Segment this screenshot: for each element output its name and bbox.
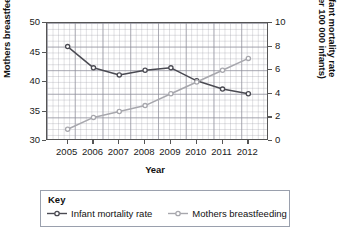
data-point-marker <box>220 68 224 72</box>
data-point-marker <box>143 104 147 108</box>
y-axis-right-title: Infant mortality rate (per 100 000 infan… <box>311 0 337 90</box>
x-axis-tick-label: 2007 <box>105 146 131 157</box>
x-axis-tick-label: 2012 <box>234 146 260 157</box>
data-point-marker <box>66 45 70 49</box>
x-axis-tick-label: 2006 <box>79 146 105 157</box>
legend-box: Key Infant mortality rateMothers breastf… <box>40 190 290 227</box>
data-point-marker <box>66 127 70 131</box>
legend-title: Key <box>48 194 283 205</box>
legend-label: Infant mortality rate <box>71 208 152 219</box>
data-point-marker <box>91 66 95 70</box>
data-point-marker <box>117 73 121 77</box>
legend-label: Mothers breastfeeding <box>192 208 287 219</box>
x-axis-title: Year <box>40 165 270 175</box>
y-axis-right-tick-label: 10 <box>275 16 293 27</box>
x-axis-tick-label: 2011 <box>209 146 235 157</box>
legend-item: Mothers breastfeeding <box>168 208 287 219</box>
y-axis-right-title-line1: Infant mortality rate <box>327 0 337 90</box>
data-point-marker <box>246 92 250 96</box>
data-point-marker <box>117 109 121 113</box>
x-axis-tick-label: 2010 <box>183 146 209 157</box>
legend-marker-icon <box>47 209 67 218</box>
chart-figure: Mothers breastfeeding (%) Infant mortali… <box>0 0 344 229</box>
y-axis-left-tick-label: 50 <box>22 16 40 27</box>
legend-item: Infant mortality rate <box>47 208 152 219</box>
data-point-marker <box>143 68 147 72</box>
x-axis-tick-label: 2005 <box>54 146 80 157</box>
y-axis-left-tickmark <box>42 140 46 141</box>
y-axis-right-tick-label: 8 <box>275 40 293 51</box>
data-point-marker <box>169 92 173 96</box>
x-axis-tick-label: 2008 <box>131 146 157 157</box>
y-axis-right-tick-label: 6 <box>275 63 293 74</box>
series-lines <box>47 23 269 141</box>
y-axis-left-tick-label: 35 <box>22 105 40 116</box>
data-point-marker <box>169 66 173 70</box>
y-axis-left-tick-label: 30 <box>22 134 40 145</box>
plot-area <box>46 22 268 140</box>
x-axis-tick-label: 2009 <box>157 146 183 157</box>
y-axis-left-tick-label: 45 <box>22 46 40 57</box>
y-axis-right-title-line2: (per 100 000 infants) <box>317 0 327 90</box>
y-axis-left-tick-label: 40 <box>22 75 40 86</box>
y-axis-right-tick-label: 4 <box>275 87 293 98</box>
data-point-marker <box>91 115 95 119</box>
legend-marker-icon <box>168 209 188 218</box>
data-point-marker <box>220 87 224 91</box>
y-axis-right-tick-label: 0 <box>275 134 293 145</box>
y-axis-left-title: Mothers breastfeeding (%) <box>2 0 16 78</box>
legend-items: Infant mortality rateMothers breastfeedi… <box>47 208 283 219</box>
y-axis-right-tick-label: 2 <box>275 110 293 121</box>
data-point-marker <box>246 56 250 60</box>
data-point-marker <box>195 80 199 84</box>
